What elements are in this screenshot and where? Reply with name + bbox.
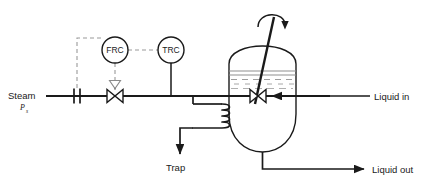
frc-tag-label: FRC — [106, 45, 123, 55]
pid-canvas: FRC TRC Trap — [0, 0, 426, 188]
trap-label: Trap — [166, 162, 185, 173]
process-flow-diagram: FRC TRC Trap — [0, 0, 426, 188]
steam-control-valve — [107, 81, 123, 103]
orifice-signal-line — [77, 38, 102, 88]
trc-tag-label: TRC — [162, 45, 179, 55]
coil-supply-branch — [193, 96, 222, 104]
liquid-in-label: Liquid in — [374, 91, 409, 102]
trc-instrument-bubble[interactable]: TRC — [158, 37, 184, 63]
frc-instrument-bubble[interactable]: FRC — [102, 37, 128, 63]
liquid-out-line — [263, 152, 365, 169]
trap-line — [180, 128, 193, 154]
steam-pressure-symbol: P — [19, 103, 25, 112]
liquid-out-label: Liquid out — [372, 164, 414, 175]
steam-label: Steam — [8, 90, 36, 101]
steam-pressure-subscript: s — [26, 108, 28, 114]
heating-coil — [193, 104, 230, 128]
